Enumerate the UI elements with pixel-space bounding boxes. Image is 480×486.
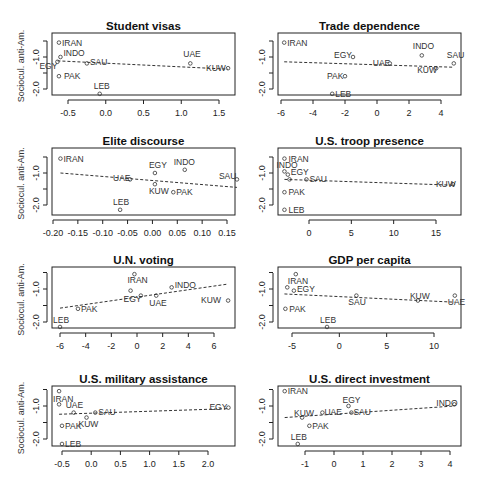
point-label: KUW <box>201 295 221 305</box>
point-marker <box>129 289 133 293</box>
point-label: SAU <box>98 407 115 417</box>
x-tick-label: -1 <box>301 459 309 469</box>
point-label: SAU <box>309 174 326 184</box>
data-point-egy: EGY <box>334 50 355 60</box>
x-tick-label: -2 <box>107 341 115 351</box>
panel-title: U.S. military assistance <box>79 373 207 385</box>
y-tick-label: -1.0 <box>257 398 267 414</box>
data-point-kuw: KUW <box>206 63 230 73</box>
point-marker <box>343 74 347 78</box>
point-marker <box>172 190 176 194</box>
x-tick-label: 4 <box>186 341 191 351</box>
data-point-indo: INDO <box>174 157 196 172</box>
data-point-pak: PAK <box>60 421 82 431</box>
point-label: KUW <box>436 179 456 189</box>
data-point-kuw: KUW <box>417 65 438 75</box>
point-label: INDO <box>174 157 196 167</box>
x-tick-label: 0.0 <box>85 459 98 469</box>
panel-title: U.S. direct investment <box>309 373 430 385</box>
point-label: KUW <box>149 186 169 196</box>
point-label: LEB <box>53 315 69 325</box>
point-label: SAU <box>90 57 107 67</box>
point-label: KUW <box>79 419 99 429</box>
point-label: UAE <box>66 400 84 410</box>
scatter-panel-7: U.S. military assistance-1.0-2.0Sociocul… <box>16 373 235 469</box>
y-axis: -1.0-2.0 <box>257 41 273 97</box>
panel-title: GDP per capita <box>328 254 411 266</box>
x-tick-label: -5 <box>288 341 296 351</box>
point-label: INDO <box>413 41 435 51</box>
y-tick-label: -2.0 <box>257 197 267 213</box>
point-label: UAE <box>149 298 167 308</box>
point-marker <box>85 62 89 66</box>
point-marker <box>118 208 122 212</box>
point-marker <box>452 62 456 66</box>
data-point-uae: UAE <box>373 58 392 68</box>
scatter-panel-1: Student visas-1.0-2.0Sociocul. anti-Am.-… <box>16 20 235 118</box>
x-tick-label: 2 <box>389 459 394 469</box>
point-marker <box>308 424 312 428</box>
x-tick-label: 1.5 <box>173 459 186 469</box>
point-label: SAU <box>447 50 464 60</box>
x-tick-label: 0.5 <box>114 459 127 469</box>
point-label: INDO <box>436 398 458 408</box>
panel-title: U.N. voting <box>113 254 174 266</box>
point-label: IRAN <box>63 154 83 164</box>
point-marker <box>283 208 287 212</box>
data-point-egy: EGY <box>209 402 230 412</box>
data-point-uae: UAE <box>448 294 466 307</box>
x-tick-label: 0 <box>374 108 379 118</box>
point-marker <box>57 389 61 393</box>
data-point-kuw: KUW <box>294 408 314 420</box>
point-label: IRAN <box>62 38 82 48</box>
data-point-leb: LEB <box>94 81 110 96</box>
y-tick-label: -2.0 <box>31 314 41 330</box>
point-label: UAE <box>113 173 131 183</box>
point-marker <box>60 442 64 446</box>
data-point-leb: LEB <box>60 439 81 449</box>
x-tick-label: 0.5 <box>137 108 150 118</box>
point-marker <box>226 66 230 70</box>
point-marker <box>60 424 64 428</box>
scatter-panel-4: U.S. troop presence-1.0-2.0051015IRANIND… <box>257 135 461 238</box>
x-tick-label: 0 <box>134 341 139 351</box>
scatter-panel-8: U.S. direct investment-1.0-2.0-101234IRA… <box>257 373 461 469</box>
point-label: KUW <box>294 408 314 418</box>
x-tick-label: 5 <box>349 228 354 238</box>
x-tick-label: 10 <box>429 341 439 351</box>
x-axis: -50510 <box>288 333 439 351</box>
point-marker <box>305 178 309 182</box>
point-label: LEB <box>65 439 81 449</box>
point-marker <box>420 54 424 58</box>
point-label: UAE <box>448 297 466 307</box>
x-tick-label: 2 <box>406 108 411 118</box>
data-point-uae: UAE <box>321 407 343 417</box>
data-point-uae: UAE <box>113 173 132 183</box>
point-marker <box>76 307 80 311</box>
x-tick-label: -0.10 <box>92 228 113 238</box>
panel-title: Elite discourse <box>103 135 185 147</box>
point-label: LEB <box>288 205 304 215</box>
y-tick-label: -1.0 <box>257 281 267 297</box>
point-label: EGY <box>39 61 57 71</box>
x-axis: -0.20-0.15-0.10-0.050.000.050.100.15 <box>43 220 236 238</box>
point-label: LEB <box>291 432 307 442</box>
scatter-matrix-figure: Student visas-1.0-2.0Sociocul. anti-Am.-… <box>0 0 480 486</box>
data-point-sau: SAU <box>219 171 239 181</box>
y-axis: -1.0-2.0 <box>31 157 47 213</box>
point-marker <box>57 74 61 78</box>
y-axis: -1.0-2.0 <box>31 390 47 447</box>
data-point-indo: INDO <box>413 41 435 57</box>
scatter-panel-6: GDP per capita-1.0-2.0-50510IRANEGYSAUKU… <box>257 254 466 351</box>
point-marker <box>226 299 230 303</box>
data-point-sau: SAU <box>85 57 107 67</box>
point-marker <box>282 41 286 45</box>
point-label: KUW <box>417 65 437 75</box>
point-label: KUW <box>206 63 226 73</box>
point-label: IRAN <box>288 386 308 396</box>
x-axis: -6-4-2024 <box>277 100 444 118</box>
point-label: PAK <box>65 421 82 431</box>
scatter-panel-3: Elite discourse-1.0-2.0Sociocul. anti-Am… <box>16 135 239 238</box>
data-point-uae: UAE <box>183 49 201 65</box>
data-point-kuw: KUW <box>149 182 169 196</box>
